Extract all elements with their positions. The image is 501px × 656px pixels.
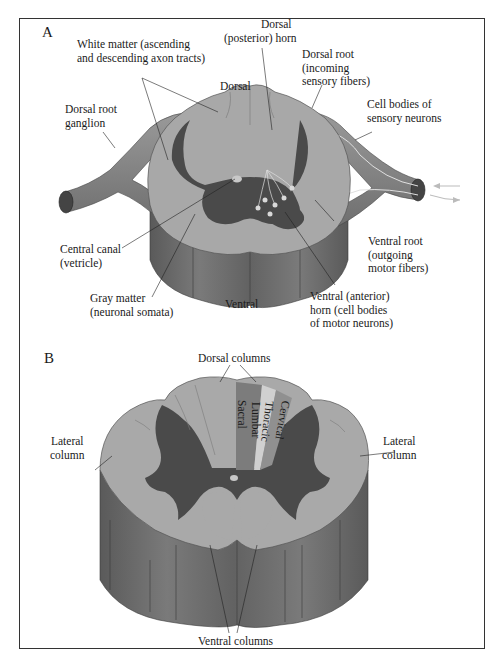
label-dorsal-root-ganglion: Dorsal root ganglion bbox=[65, 103, 117, 130]
label-cell-bodies-sensory: Cell bodies of sensory neurons bbox=[367, 98, 441, 125]
label-lateral-column-left: Lateral column bbox=[50, 435, 85, 462]
label-dorsal: Dorsal bbox=[220, 80, 251, 94]
label-ventral: Ventral bbox=[225, 298, 258, 312]
label-dorsal-horn: Dorsal (posterior) horn bbox=[256, 18, 297, 45]
label-white-matter: White matter (ascending and descending a… bbox=[77, 38, 205, 65]
label-ventral-root: Ventral root (outgoing motor fibers) bbox=[368, 235, 428, 276]
label-sacral: Sacral bbox=[236, 400, 248, 429]
label-gray-matter: Gray matter (neuronal somata) bbox=[90, 292, 173, 319]
label-dorsal-root: Dorsal root (incoming sensory fibers) bbox=[302, 48, 370, 89]
label-dorsal-columns: Dorsal columns bbox=[198, 352, 271, 366]
label-central-canal: Central canal (vetricle) bbox=[60, 243, 121, 270]
panel-b-label: B bbox=[44, 350, 54, 367]
label-lateral-column-right: Lateral column bbox=[382, 435, 417, 462]
panel-a-label: A bbox=[42, 24, 53, 41]
label-ventral-horn: Ventral (anterior) horn (cell bodies of … bbox=[310, 290, 393, 331]
label-ventral-columns: Ventral columns bbox=[198, 635, 273, 649]
